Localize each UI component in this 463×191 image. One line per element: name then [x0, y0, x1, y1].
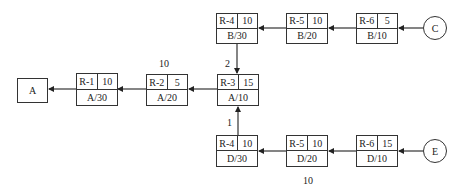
node-tag: A/30	[77, 90, 117, 106]
node-tag: A/20	[147, 90, 187, 105]
node-tag: D/10	[357, 151, 397, 166]
node-tag: A/10	[218, 90, 258, 105]
resource-value: 5	[378, 14, 398, 28]
resource-value: 10	[238, 14, 258, 28]
resource-label: R-2	[147, 75, 168, 89]
sink-node-a: A	[17, 78, 48, 103]
node-r6-b10: R-65 B/10	[356, 13, 398, 44]
resource-label: R-3	[218, 75, 239, 89]
resource-value: 10	[308, 136, 328, 150]
resource-label: R-6	[357, 14, 378, 28]
source-label: E	[432, 146, 438, 157]
node-r5-b20: R-510 B/20	[286, 13, 328, 44]
node-r1-a30: R-110 A/30	[76, 73, 118, 106]
resource-value: 10	[238, 136, 258, 150]
node-tag: B/30	[217, 29, 257, 44]
source-node-c: C	[423, 16, 447, 40]
annotation-below-bottom: 10	[303, 175, 313, 186]
resource-label: R-4	[217, 14, 238, 28]
resource-value: 10	[98, 74, 118, 89]
source-node-e: E	[423, 139, 447, 163]
resource-value: 15	[378, 136, 398, 150]
node-r4-d30: R-410 D/30	[216, 135, 258, 167]
resource-value: 10	[308, 14, 328, 28]
resource-label: R-1	[77, 74, 98, 89]
resource-value: 5	[168, 75, 188, 89]
node-tag: D/30	[217, 151, 257, 166]
resource-label: R-5	[287, 136, 308, 150]
resource-label: R-4	[217, 136, 238, 150]
resource-value: 15	[239, 75, 259, 89]
node-r5-d20: R-510 D/20	[286, 135, 328, 167]
node-r6-d10: R-615 D/10	[356, 135, 398, 167]
annotation-above-r2: 10	[159, 58, 169, 69]
resource-label: R-5	[287, 14, 308, 28]
node-tag: B/10	[357, 29, 397, 44]
node-r3-a10: R-315 A/10	[217, 74, 259, 106]
node-tag: B/20	[287, 29, 327, 44]
node-r2-a20: R-25 A/20	[146, 74, 188, 106]
annotation-top-branch: 2	[225, 58, 230, 69]
annotation-bottom-branch: 1	[227, 117, 232, 128]
resource-label: R-6	[357, 136, 378, 150]
node-r4-b30: R-410 B/30	[216, 13, 258, 44]
sink-label: A	[29, 85, 36, 96]
source-label: C	[432, 23, 439, 34]
node-tag: D/20	[287, 151, 327, 166]
